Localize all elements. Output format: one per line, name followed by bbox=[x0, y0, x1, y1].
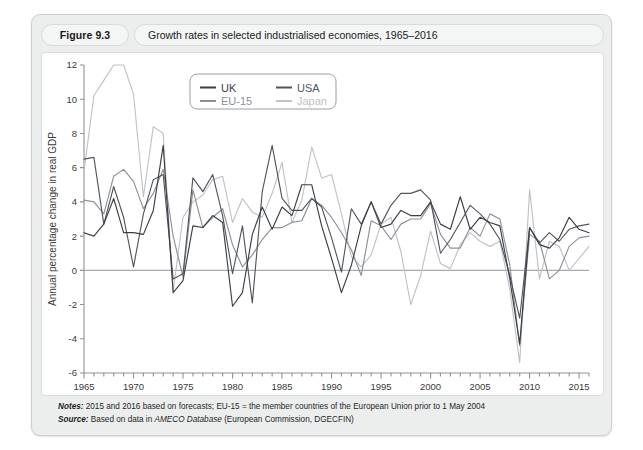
y-axis: -6-4-2024681012 bbox=[66, 59, 84, 378]
source-line: Source: Based on data in AMECO Database … bbox=[41, 414, 604, 427]
figure-container: Figure 9.3 Growth rates in selected indu… bbox=[31, 14, 612, 436]
notes-line: Notes: 2015 and 2016 based on forecasts;… bbox=[41, 401, 604, 414]
figure-number: Figure 9.3 bbox=[41, 24, 129, 46]
y-axis-title: Annual percentage change in real GDP bbox=[47, 132, 58, 306]
x-tick-label: 1965 bbox=[73, 381, 94, 392]
x-tick-label: 1975 bbox=[172, 381, 193, 392]
y-tick-label: -2 bbox=[69, 299, 77, 310]
chart-plot-card: -6-4-2024681012 Annual percentage change… bbox=[41, 52, 604, 396]
notes-label: Notes: bbox=[58, 402, 83, 411]
x-tick-label: 2010 bbox=[519, 381, 540, 392]
figure-notes: Notes: 2015 and 2016 based on forecasts;… bbox=[41, 401, 604, 426]
y-tick-label: 10 bbox=[66, 94, 77, 105]
figure-caption: Growth rates in selected industrialised … bbox=[134, 24, 604, 46]
legend-label-japan: Japan bbox=[297, 95, 327, 107]
x-tick-label: 1970 bbox=[123, 381, 144, 392]
source-text-a: Based on data in bbox=[88, 415, 154, 424]
x-tick-label: 1995 bbox=[370, 381, 391, 392]
x-tick-label: 2005 bbox=[470, 381, 491, 392]
source-label: Source: bbox=[58, 415, 88, 424]
y-tick-label: 4 bbox=[72, 196, 77, 207]
x-tick-label: 1990 bbox=[321, 381, 342, 392]
x-tick-label: 1985 bbox=[271, 381, 292, 392]
x-axis: 1965197019751980198519901995200020052010… bbox=[73, 373, 589, 392]
x-tick-label: 1980 bbox=[222, 381, 243, 392]
x-tick-label: 2000 bbox=[420, 381, 441, 392]
series-line-japan bbox=[84, 65, 589, 363]
y-tick-label: 2 bbox=[72, 231, 77, 242]
y-axis-title-text: Annual percentage change in real GDP bbox=[47, 132, 58, 306]
legend-label-usa: USA bbox=[297, 82, 320, 94]
series-lines bbox=[84, 65, 589, 363]
chart-legend: UKUSAEU-15Japan bbox=[190, 74, 336, 109]
notes-text: 2015 and 2016 based on forecasts; EU-15 … bbox=[83, 402, 485, 411]
source-italic: AMECO Database bbox=[155, 415, 222, 424]
legend-label-eu-15: EU-15 bbox=[221, 95, 252, 107]
y-tick-label: -4 bbox=[69, 333, 77, 344]
y-tick-label: 0 bbox=[72, 265, 77, 276]
y-tick-label: 6 bbox=[72, 162, 77, 173]
source-text-b: (European Commission, DGECFIN) bbox=[222, 415, 354, 424]
legend-label-uk: UK bbox=[221, 82, 237, 94]
y-tick-label: 8 bbox=[72, 128, 77, 139]
y-tick-label: -6 bbox=[69, 367, 77, 378]
x-tick-label: 2015 bbox=[569, 381, 590, 392]
y-tick-label: 12 bbox=[66, 59, 77, 70]
figure-header: Figure 9.3 Growth rates in selected indu… bbox=[41, 24, 604, 46]
growth-rates-line-chart: -6-4-2024681012 Annual percentage change… bbox=[42, 53, 603, 395]
